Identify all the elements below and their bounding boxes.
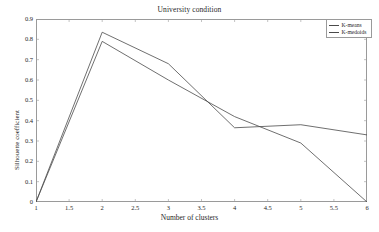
legend-line-icon xyxy=(329,25,339,26)
y-tick-label: 0.2 xyxy=(11,157,33,164)
y-tick-label: 0.4 xyxy=(11,117,33,124)
x-tick-label: 3.5 xyxy=(192,204,212,211)
series-line xyxy=(36,41,367,202)
legend-item-label: K-means xyxy=(342,22,362,30)
y-tick-label: 0.3 xyxy=(11,137,33,144)
legend-line-icon xyxy=(329,32,339,33)
series-line xyxy=(36,32,367,202)
y-tick-label: 0.5 xyxy=(11,96,33,103)
legend-item-label: K-medoids xyxy=(342,29,367,37)
plot-lines xyxy=(36,19,367,202)
x-tick-label: 1.5 xyxy=(59,204,79,211)
y-tick-label: 0.9 xyxy=(11,15,33,22)
chart-figure: University condition Silhouette coeffici… xyxy=(0,0,379,232)
chart-title: University condition xyxy=(0,5,379,14)
y-tick-label: 0.6 xyxy=(11,76,33,83)
x-tick-label: 3 xyxy=(158,204,178,211)
x-tick-label: 4.5 xyxy=(258,204,278,211)
y-tick-label: 0.1 xyxy=(11,178,33,185)
x-tick-label: 4 xyxy=(225,204,245,211)
legend: K-means K-medoids xyxy=(326,19,372,38)
y-tick-label: 0.7 xyxy=(11,56,33,63)
x-tick-label: 2.5 xyxy=(125,204,145,211)
x-tick-label: 6 xyxy=(357,204,377,211)
x-tick-label: 5 xyxy=(291,204,311,211)
y-tick-label: 0.8 xyxy=(11,35,33,42)
x-axis-title: Number of clusters xyxy=(0,213,379,222)
legend-item: K-medoids xyxy=(327,29,371,37)
x-tick-label: 5.5 xyxy=(324,204,344,211)
legend-item: K-means xyxy=(327,22,371,30)
x-tick-label: 2 xyxy=(92,204,112,211)
x-tick-label: 1 xyxy=(26,204,46,211)
